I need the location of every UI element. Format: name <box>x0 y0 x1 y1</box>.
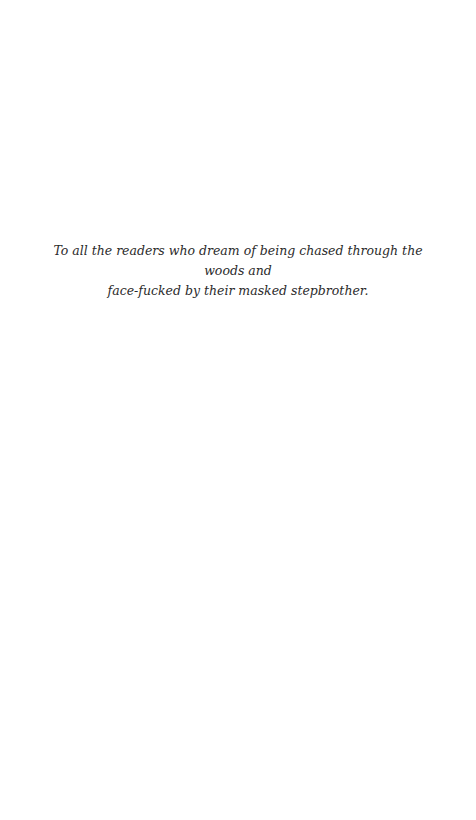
book-page: To all the readers who dream of being ch… <box>0 0 476 820</box>
dedication-text: To all the readers who dream of being ch… <box>40 241 436 301</box>
dedication-line-2: face-fucked by their masked stepbrother. <box>40 281 436 301</box>
dedication-line-1: To all the readers who dream of being ch… <box>40 241 436 281</box>
